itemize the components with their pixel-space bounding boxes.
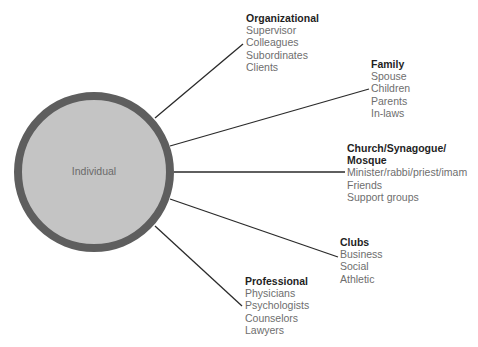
node-item: Children (371, 82, 410, 94)
node-item: Friends (347, 179, 467, 191)
node-item: Physicians (245, 287, 309, 299)
node-item: Psychologists (245, 299, 309, 311)
node-title: Clubs (340, 236, 383, 248)
node-item: Athletic (340, 273, 383, 285)
node-item: In-laws (371, 107, 410, 119)
individual-label: Individual (54, 165, 134, 177)
node-professional: Professional Physicians Psychologists Co… (245, 275, 309, 336)
connector-lines (155, 44, 369, 306)
node-item: Business (340, 248, 383, 260)
connector-professional (155, 226, 242, 306)
node-item: Lawyers (245, 324, 309, 336)
node-item: Support groups (347, 191, 467, 203)
node-church: Church/Synagogue/ Mosque Minister/rabbi/… (347, 142, 467, 203)
node-organizational: Organizational Supervisor Colleagues Sub… (246, 12, 319, 73)
connector-organizational (155, 44, 243, 118)
node-item: Parents (371, 95, 410, 107)
node-item: Minister/rabbi/priest/imam (347, 166, 467, 178)
node-clubs: Clubs Business Social Athletic (340, 236, 383, 285)
node-title: Professional (245, 275, 309, 287)
node-item: Spouse (371, 70, 410, 82)
node-item: Clients (246, 61, 319, 73)
node-title: Organizational (246, 12, 319, 24)
node-item: Colleagues (246, 36, 319, 48)
node-family: Family Spouse Children Parents In-laws (371, 58, 410, 119)
node-item: Counselors (245, 312, 309, 324)
node-item: Social (340, 260, 383, 272)
node-title: Church/Synagogue/ (347, 142, 467, 154)
connector-clubs (170, 199, 338, 257)
node-title-line2: Mosque (347, 154, 467, 166)
node-item: Supervisor (246, 24, 319, 36)
node-item: Subordinates (246, 49, 319, 61)
connector-family (170, 89, 369, 146)
node-title: Family (371, 58, 410, 70)
